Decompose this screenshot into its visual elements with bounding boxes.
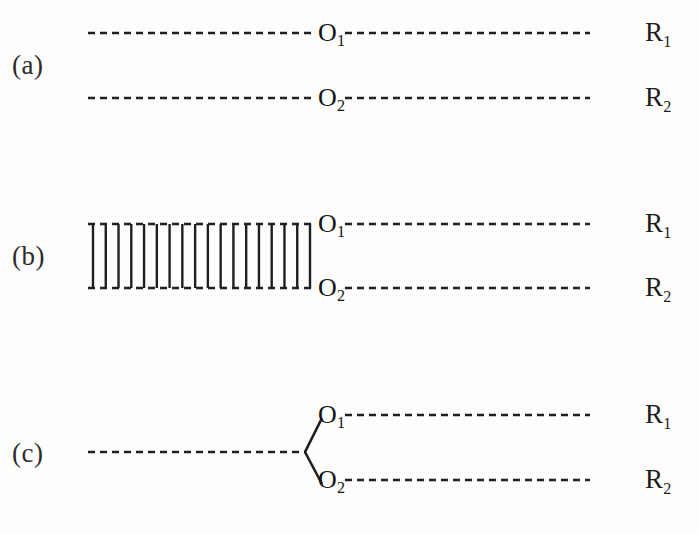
axis-label-r1-panel-c: R1: [645, 401, 671, 428]
figure-vector-layer: [0, 0, 699, 534]
panel-letter-c: (c): [12, 438, 43, 469]
node-o1-subscript: 1: [337, 32, 345, 49]
axis-r1-symbol: R: [645, 17, 663, 47]
node-o1-subscript: 1: [337, 414, 345, 431]
axis-r1-symbol: R: [645, 399, 663, 429]
axis-label-r1-panel-a: R1: [645, 19, 671, 46]
node-label-o1-panel-c: O1: [318, 402, 345, 428]
node-o1-symbol: O: [318, 18, 337, 47]
axis-r1-symbol: R: [645, 208, 663, 238]
node-label-o2-panel-b: O2: [318, 275, 345, 301]
axis-r1-subscript: 1: [663, 415, 671, 433]
axis-label-r1-panel-b: R1: [645, 210, 671, 237]
axis-r2-subscript: 2: [663, 288, 671, 306]
axis-label-r2-panel-a: R2: [645, 84, 671, 111]
node-label-o2-panel-c: O2: [318, 467, 345, 493]
figure-canvas: (a) O1 O2 R1 R2 (b) O1 O2 R1 R2 (c) O1 O…: [0, 0, 699, 534]
panel-letter-b: (b): [12, 241, 45, 272]
panel-letter-a: (a): [12, 50, 43, 81]
axis-label-r2-panel-c: R2: [645, 466, 671, 493]
node-label-o2-panel-a: O2: [318, 85, 345, 111]
axis-label-r2-panel-b: R2: [645, 274, 671, 301]
axis-r2-subscript: 2: [663, 98, 671, 116]
node-o1-symbol: O: [318, 400, 337, 429]
axis-r2-symbol: R: [645, 272, 663, 302]
node-o2-symbol: O: [318, 465, 337, 494]
axis-r1-subscript: 1: [663, 224, 671, 242]
node-label-o1-panel-a: O1: [318, 20, 345, 46]
node-label-o1-panel-b: O1: [318, 211, 345, 237]
node-o2-subscript: 2: [337, 97, 345, 114]
node-o1-subscript: 1: [337, 223, 345, 240]
node-o2-symbol: O: [318, 273, 337, 302]
node-o2-subscript: 2: [337, 479, 345, 496]
axis-r2-subscript: 2: [663, 480, 671, 498]
node-o2-subscript: 2: [337, 287, 345, 304]
node-o2-symbol: O: [318, 83, 337, 112]
node-o1-symbol: O: [318, 209, 337, 238]
axis-r1-subscript: 1: [663, 33, 671, 51]
axis-r2-symbol: R: [645, 464, 663, 494]
axis-r2-symbol: R: [645, 82, 663, 112]
